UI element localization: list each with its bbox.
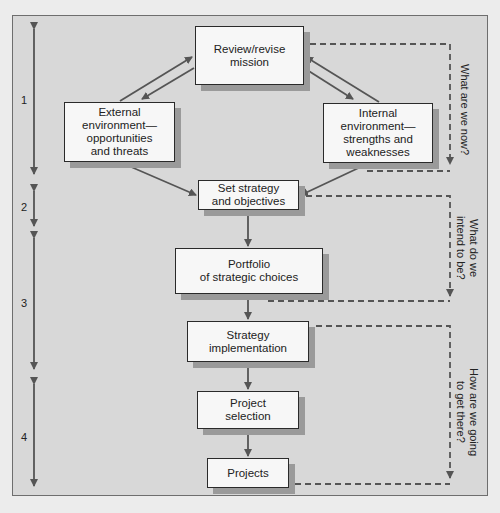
arrow-external-to-review <box>120 57 192 101</box>
arrow-external-to-strategy <box>122 163 196 195</box>
node-project-selection: Project selection <box>197 391 299 429</box>
node-projects: Projects <box>207 458 289 488</box>
question-how-get-there: How are we going to get there? <box>454 360 480 464</box>
bracket-how-get-there <box>316 326 450 478</box>
arrow-internal-to-review <box>306 57 379 102</box>
node-external-environment: External environment— opportunities and … <box>64 102 175 162</box>
question-what-do-we-intend: What do we intend to be? <box>454 213 480 283</box>
question-what-are-we-now: What are we now? <box>458 62 471 158</box>
stage-label-1: 1 <box>21 94 27 106</box>
arrow-review-to-internal <box>304 68 353 99</box>
bracket-what-do-we-intend <box>306 196 450 296</box>
stage-label-4: 4 <box>21 431 27 443</box>
node-review-mission: Review/revise mission <box>195 26 304 85</box>
node-internal-environment: Internal environment— strengths and weak… <box>323 103 433 163</box>
node-set-strategy: Set strategy and objectives <box>198 180 299 210</box>
stage-label-2: 2 <box>21 201 27 213</box>
stage-label-3: 3 <box>21 297 27 309</box>
arrow-internal-to-strategy <box>301 164 367 195</box>
node-portfolio: Portfolio of strategic choices <box>175 248 323 294</box>
node-strategy-implementation: Strategy implementation <box>187 321 309 362</box>
